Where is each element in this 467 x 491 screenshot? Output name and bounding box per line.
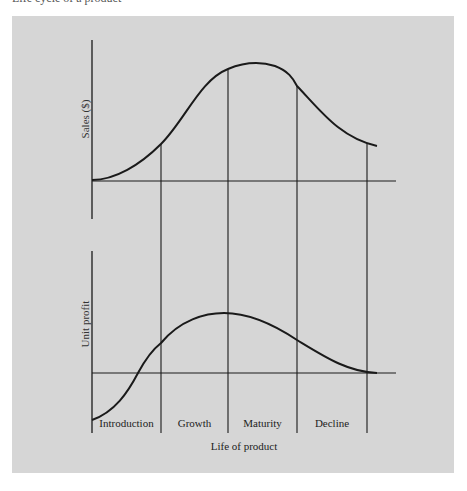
stage-label-introduction: Introduction: [92, 417, 161, 429]
stage-label-growth: Growth: [161, 417, 228, 429]
stage-label-maturity: Maturity: [228, 417, 297, 429]
stage-label-decline: Decline: [297, 417, 367, 429]
sales-axis-label: Sales ($): [79, 79, 91, 159]
x-axis-label: Life of product: [92, 440, 396, 452]
unit-profit-axis-label: Unit profit: [79, 284, 91, 364]
sales-curve: [92, 63, 377, 180]
unit-profit-curve: [92, 313, 377, 420]
